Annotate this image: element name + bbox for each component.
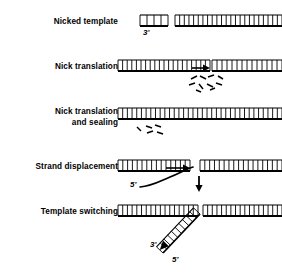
nucleotide-fragment bbox=[210, 88, 215, 90]
base-pair-rung bbox=[175, 227, 182, 233]
nucleotide-fragment bbox=[189, 83, 195, 85]
dna-schematic-artwork bbox=[0, 0, 282, 275]
base-pair-rung bbox=[179, 223, 186, 229]
nucleotide-fragment bbox=[146, 126, 152, 128]
nucleotide-fragment bbox=[200, 76, 206, 79]
arrow-head bbox=[195, 185, 202, 192]
nucleotide-fragment bbox=[208, 75, 214, 77]
nucleotide-fragment bbox=[191, 76, 197, 79]
mechanism-row-nicked-template bbox=[140, 15, 282, 26]
nucleotide-fragment bbox=[196, 90, 201, 92]
nucleotide-fragment bbox=[207, 84, 213, 87]
nucleotide-fragment bbox=[147, 131, 153, 133]
base-pair-rung bbox=[193, 208, 200, 214]
base-pair-rung bbox=[182, 220, 189, 226]
nucleotide-fragment bbox=[137, 127, 141, 131]
mechanism-row-nick-translation bbox=[118, 60, 282, 92]
mechanism-row-template-switching bbox=[118, 205, 282, 253]
nucleotide-fragment bbox=[155, 125, 161, 127]
base-pair-rung bbox=[171, 231, 178, 237]
dna-mechanisms-figure: Nicked template Nick translation Nick tr… bbox=[0, 0, 282, 275]
mechanism-row-nick-translation-and-sealing bbox=[118, 108, 282, 134]
nucleotide-fragment bbox=[216, 83, 222, 85]
nucleotide-fragment bbox=[199, 84, 203, 89]
nucleotide-fragment bbox=[157, 132, 163, 134]
mechanism-row-strand-displacement bbox=[118, 160, 282, 192]
nucleotide-fragment bbox=[218, 76, 223, 79]
base-pair-rung bbox=[168, 235, 175, 241]
